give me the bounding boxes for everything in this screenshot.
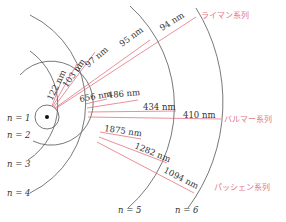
label-486nm: 486 nm (107, 87, 140, 100)
label-410nm: 410 nm (183, 110, 215, 120)
paschen-series-label: パッシェン系列 (214, 182, 270, 192)
level-label-n2: n = 2 (7, 130, 30, 140)
hydrogen-energy-diagram: 122 nm 103 nm 97 nm 95 nm 94 nm 656 nm 4… (0, 0, 286, 222)
paschen-lines (97, 132, 194, 193)
label-1094nm: 1094 nm (162, 165, 200, 191)
level-label-n1: n = 1 (7, 113, 30, 123)
lyman-series-label: ライマン系列 (201, 10, 249, 20)
nucleus (45, 115, 49, 119)
label-97nm: 97 nm (83, 44, 110, 69)
level-label-n4: n = 4 (7, 188, 30, 198)
level-label-n3: n = 3 (7, 159, 30, 169)
level-label-n6: n = 6 (175, 205, 199, 215)
label-434nm: 434 nm (143, 102, 175, 112)
balmer-series-label: バルマー系列 (224, 114, 272, 124)
label-94nm: 94 nm (158, 10, 186, 33)
label-95nm: 95 nm (117, 25, 145, 49)
level-label-n5: n = 5 (118, 205, 141, 215)
